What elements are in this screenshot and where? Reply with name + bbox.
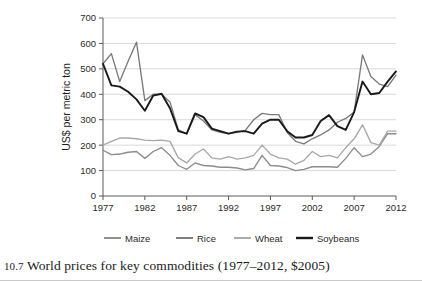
x-tick-label: 2002 (302, 202, 323, 213)
y-axis-label: US$ per metric ton (60, 63, 72, 151)
y-tick-label: 500 (80, 63, 96, 74)
y-tick-label: 400 (80, 89, 96, 100)
commodity-price-line-chart: 0100200300400500600700 19771982198719921… (0, 0, 422, 255)
gridlines-group (103, 18, 396, 171)
x-tick-marks-group (103, 196, 396, 200)
x-tick-label: 1982 (134, 202, 155, 213)
figure-container: 0100200300400500600700 19771982198719921… (0, 0, 422, 281)
legend-label-wheat: Wheat (255, 233, 283, 244)
x-tick-label: 2012 (385, 202, 406, 213)
x-tick-label: 2007 (344, 202, 365, 213)
series-line-wheat (103, 125, 396, 164)
y-tick-marks-group (99, 18, 103, 196)
x-tick-label: 1977 (92, 202, 113, 213)
legend-label-maize: Maize (125, 233, 150, 244)
y-tick-label: 200 (80, 140, 96, 151)
y-tick-label: 100 (80, 165, 96, 176)
chart-plot-area: 0100200300400500600700 19771982198719921… (0, 0, 422, 255)
figure-number: 10.7 (4, 260, 24, 272)
series-line-maize (103, 134, 396, 171)
series-line-rice (103, 42, 396, 144)
x-tick-label: 1992 (218, 202, 239, 213)
y-tick-label: 0 (91, 190, 96, 201)
x-tick-label: 1997 (260, 202, 281, 213)
chart-legend: MaizeRiceWheatSoybeans (104, 233, 360, 244)
data-series-group (103, 42, 396, 170)
y-tick-labels-group: 0100200300400500600700 (80, 12, 96, 201)
figure-caption-text: World prices for key commodities (1977–2… (27, 258, 330, 273)
series-line-soybeans (103, 64, 396, 138)
figure-caption: 10.7 World prices for key commodities (1… (4, 258, 418, 274)
legend-label-rice: Rice (197, 233, 216, 244)
y-tick-label: 700 (80, 12, 96, 23)
legend-label-soybeans: Soybeans (317, 233, 360, 244)
x-tick-label: 1987 (176, 202, 197, 213)
x-tick-labels-group: 19771982198719921997200220072012 (92, 202, 406, 213)
y-tick-label: 300 (80, 114, 96, 125)
y-tick-label: 600 (80, 38, 96, 49)
